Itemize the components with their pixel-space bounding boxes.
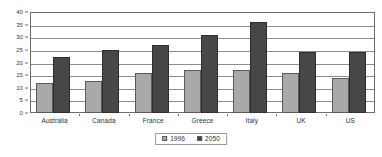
bar-chart: 0510152025303540 AustraliaCanadaFranceGr…	[0, 0, 382, 157]
chart-legend: 19962050	[155, 133, 227, 145]
legend-label: 1996	[170, 135, 185, 142]
y-tick-mark	[25, 113, 28, 114]
y-tick-mark	[25, 62, 28, 63]
y-tick-mark	[25, 100, 28, 101]
x-tick-mark	[326, 114, 327, 116]
bar-group	[227, 12, 276, 113]
y-tick-label: 0	[20, 110, 23, 116]
bar-1996-uk	[282, 73, 299, 113]
legend-swatch-icon	[162, 136, 167, 141]
x-tick-label: Greece	[192, 117, 214, 124]
y-tick-label: 30	[16, 34, 23, 40]
x-tick-label: Italy	[246, 117, 258, 124]
y-tick-mark	[25, 24, 28, 25]
bar-2050-greece	[201, 35, 218, 113]
x-tick-label: Australia	[42, 117, 68, 124]
legend-swatch-icon	[197, 136, 202, 141]
bar-2050-france	[152, 45, 169, 113]
y-tick-label: 5	[20, 97, 23, 103]
bar-group	[129, 12, 178, 113]
y-tick-mark	[25, 49, 28, 50]
bar-2050-italy	[250, 22, 267, 113]
x-tick-mark	[227, 114, 228, 116]
bar-1996-greece	[184, 70, 201, 113]
bar-group	[79, 12, 128, 113]
x-tick-mark	[276, 114, 277, 116]
legend-label: 2050	[205, 135, 220, 142]
y-tick-mark	[25, 75, 28, 76]
y-tick-label: 15	[16, 72, 23, 78]
x-tick-label: Canada	[92, 117, 115, 124]
y-tick-label: 25	[16, 47, 23, 53]
y-tick-label: 40	[16, 9, 23, 15]
bar-1996-australia	[36, 83, 53, 113]
bar-1996-italy	[233, 70, 250, 113]
bar-group	[326, 12, 375, 113]
bar-1996-canada	[85, 81, 102, 113]
bars-layer	[30, 12, 375, 113]
bar-2050-us	[349, 52, 366, 113]
bar-group	[178, 12, 227, 113]
legend-entry-1996[interactable]: 1996	[162, 135, 185, 142]
x-tick-mark	[178, 114, 179, 116]
y-tick-label: 10	[16, 85, 23, 91]
bar-2050-australia	[53, 57, 70, 113]
x-tick-label: UK	[296, 117, 305, 124]
x-tick-mark	[129, 114, 130, 116]
y-tick-mark	[25, 12, 28, 13]
bar-2050-canada	[102, 50, 119, 113]
bar-1996-france	[135, 73, 152, 113]
bar-1996-us	[332, 78, 349, 113]
x-axis: AustraliaCanadaFranceGreeceItalyUKUS	[30, 114, 375, 128]
bar-2050-uk	[299, 52, 316, 113]
y-tick-label: 35	[16, 22, 23, 28]
bar-group	[276, 12, 325, 113]
legend-entry-2050[interactable]: 2050	[197, 135, 220, 142]
bar-group	[30, 12, 79, 113]
y-tick-label: 20	[16, 60, 23, 66]
x-tick-mark	[79, 114, 80, 116]
x-tick-label: US	[346, 117, 355, 124]
x-tick-label: France	[143, 117, 164, 124]
y-tick-mark	[25, 37, 28, 38]
y-axis: 0510152025303540	[0, 12, 28, 113]
y-tick-mark	[25, 87, 28, 88]
